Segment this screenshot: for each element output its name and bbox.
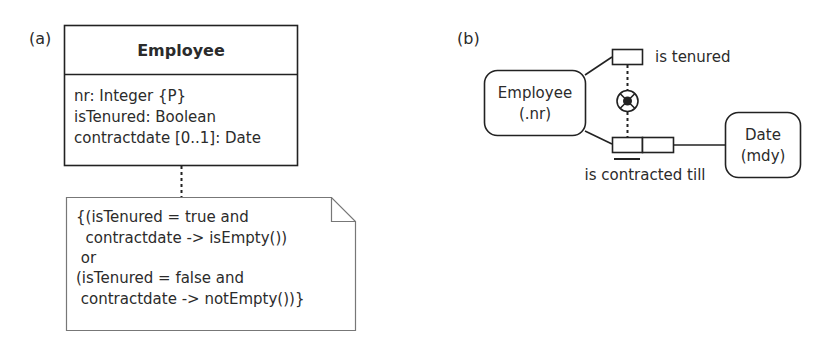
entity-ref-mode: (mdy)	[741, 147, 786, 165]
uml-class-employee: Employee nr: Integer {P} isTenured: Bool…	[65, 26, 298, 166]
predicate-reading: is contracted till	[585, 166, 706, 184]
note-line: {(isTenured = true and	[76, 208, 249, 226]
class-attribute: isTenured: Boolean	[74, 108, 216, 126]
predicate-is-contracted-till: is contracted till	[585, 131, 726, 184]
entity-employee: Employee (.nr)	[485, 71, 586, 136]
role-box	[643, 138, 674, 153]
entity-date: Date (mdy)	[726, 113, 801, 178]
entity-name: Employee	[498, 84, 572, 102]
xor-constraint-icon	[617, 65, 638, 137]
class-attribute: contractdate [0..1]: Date	[74, 129, 261, 147]
note-line: (isTenured = false and	[76, 269, 244, 287]
entity-name: Date	[745, 126, 781, 144]
note-line: contractdate -> isEmpty())	[76, 229, 287, 247]
entity-ref-mode: (.nr)	[519, 105, 551, 123]
role-box	[613, 50, 643, 65]
uml-note: {(isTenured = true and contractdate -> i…	[67, 198, 356, 331]
role-connector	[585, 57, 612, 75]
entity-box	[726, 113, 801, 178]
role-connector	[585, 131, 612, 144]
role-box	[613, 138, 643, 153]
class-attribute: nr: Integer {P}	[74, 87, 186, 105]
constraint-dot	[623, 97, 632, 106]
note-line: or	[76, 249, 97, 267]
diagram-canvas: (a) Employee nr: Integer {P} isTenured: …	[0, 0, 833, 348]
class-name: Employee	[137, 41, 225, 60]
note-line: contractdate -> notEmpty())}	[76, 290, 304, 308]
panel-a-label: (a)	[29, 29, 51, 48]
predicate-reading: is tenured	[655, 48, 730, 66]
entity-box	[485, 71, 586, 136]
panel-b-label: (b)	[457, 29, 480, 48]
predicate-is-tenured: is tenured	[585, 48, 730, 75]
